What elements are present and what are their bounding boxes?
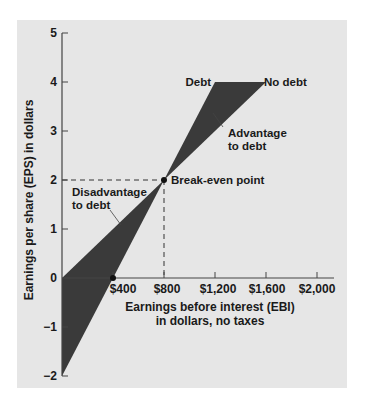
x-tick-label: $400	[110, 282, 137, 296]
debt-line-label: Debt	[185, 76, 211, 88]
y-tick-label: −1	[43, 320, 57, 334]
disadvantage-label-line2: to debt	[72, 199, 110, 211]
break-even-label: Break-even point	[171, 174, 264, 186]
y-tick-label: 0	[50, 271, 57, 285]
x-tick-label: $800	[154, 282, 181, 296]
y-tick-label: 2	[50, 173, 57, 187]
eps-ebi-chart: 5 4 3 2 1 0 −1 −2 $400 $800 $1,200 $1,60…	[0, 0, 366, 404]
y-axis-title: Earnings per share (EPS) in dollars	[22, 99, 36, 300]
break-even-point-marker	[161, 177, 167, 183]
x-axis-title-line2: in dollars, no taxes	[156, 314, 265, 328]
x-tick-label: $2,000	[299, 282, 336, 296]
x-tick-label: $1,600	[249, 282, 286, 296]
y-tick-label: 1	[50, 222, 57, 236]
debt-zero-eps-marker	[110, 275, 116, 281]
x-axis-title-line1: Earnings before interest (EBI)	[125, 300, 294, 314]
disadvantage-label-line1: Disadvantage	[72, 186, 147, 198]
no-debt-line-label: No debt	[264, 76, 307, 88]
y-tick-label: 3	[50, 124, 57, 138]
y-tick-label: 4	[50, 75, 57, 89]
y-tick-label: 5	[50, 26, 57, 40]
advantage-label-line1: Advantage	[228, 127, 287, 139]
y-tick-label: −2	[43, 369, 57, 383]
advantage-label-line2: to debt	[228, 140, 266, 152]
x-tick-label: $1,200	[200, 282, 237, 296]
